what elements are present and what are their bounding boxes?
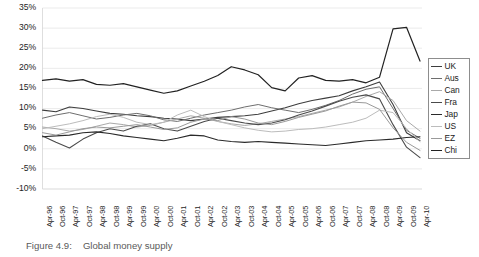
legend-swatch-icon: [431, 138, 442, 139]
legend-item-us[interactable]: US: [429, 121, 469, 133]
legend-item-label: US: [445, 122, 456, 131]
series-line-chi: [43, 27, 421, 93]
x-axis-tick-label: Apr-02: [207, 206, 215, 227]
chart-plot-area: 35%30%25%20%15%10%5%0%-5%-10% Apr-96Oct-…: [0, 0, 479, 232]
x-axis-tick-label: Apr-08: [369, 206, 377, 227]
series-lines-group: [43, 27, 421, 157]
x-axis-tick-label: Oct-99: [140, 206, 148, 227]
legend-swatch-icon: [431, 90, 442, 91]
legend-item-label: Jap: [445, 110, 458, 119]
gridlines-group: [43, 8, 423, 189]
x-axis-tick-label: Apr-97: [72, 206, 80, 227]
x-axis-tick-label: Oct-98: [113, 206, 121, 227]
legend-item-label: Can: [445, 86, 460, 95]
x-axis-tick-label: Apr-09: [396, 206, 404, 227]
x-axis-tick-label: Oct-97: [86, 206, 94, 227]
x-axis-tick-label: Oct-08: [383, 206, 391, 227]
legend-item-ez[interactable]: EZ: [429, 133, 469, 145]
legend-swatch-icon: [431, 102, 442, 103]
legend-item-fra[interactable]: Fra: [429, 97, 469, 109]
x-axis-tick-label: Oct-04: [275, 206, 283, 227]
x-axis-tick-label: Oct-07: [356, 206, 364, 227]
x-axis-tick-label: Apr-04: [261, 206, 269, 227]
x-axis-tick-label: Apr-01: [180, 206, 188, 227]
x-axis-tick-label: Oct-09: [410, 206, 418, 227]
legend-swatch-icon: [431, 66, 442, 67]
y-axis-tick-label: 20%: [2, 63, 36, 72]
x-axis-tick-label: Apr-10: [423, 206, 431, 227]
legend-item-aus[interactable]: Aus: [429, 73, 469, 85]
y-axis-tick-label: -5%: [2, 164, 36, 173]
x-axis-tick-label: Oct-03: [248, 206, 256, 227]
legend-item-label: EZ: [445, 134, 456, 143]
legend-item-label: Chi: [445, 146, 457, 155]
legend-item-jap[interactable]: Jap: [429, 109, 469, 121]
x-axis-tick-label: Apr-00: [153, 206, 161, 227]
legend-item-label: UK: [445, 62, 456, 71]
y-axis-tick-label: 25%: [2, 43, 36, 52]
x-axis-tick-label: Apr-06: [315, 206, 323, 227]
x-axis-tick-label: Apr-05: [288, 206, 296, 227]
figure-caption: Figure 4.9:Global money supply: [26, 240, 172, 252]
series-line-jap: [43, 132, 421, 146]
legend-swatch-icon: [431, 114, 442, 115]
series-line-fra: [43, 95, 421, 158]
legend-swatch-icon: [431, 78, 442, 79]
legend-item-uk[interactable]: UK: [429, 61, 469, 73]
y-axis-tick-label: 30%: [2, 23, 36, 32]
legend-item-chi[interactable]: Chi: [429, 145, 469, 157]
chart-legend: UKAusCanFraJapUSEZChi: [428, 58, 470, 159]
y-axis-tick-label: 35%: [2, 3, 36, 12]
x-axis-tick-label: Apr-07: [342, 206, 350, 227]
figure-caption-number: Figure 4.9:: [26, 240, 72, 251]
y-axis-tick-label: 0%: [2, 144, 36, 153]
legend-item-can[interactable]: Can: [429, 85, 469, 97]
figure-global-money-supply: 35%30%25%20%15%10%5%0%-5%-10% Apr-96Oct-…: [0, 0, 479, 257]
x-axis-tick-label: Oct-05: [302, 206, 310, 227]
x-axis-tick-label: Oct-96: [59, 206, 67, 227]
x-axis-tick-label: Oct-06: [329, 206, 337, 227]
x-axis-tick-label: Apr-03: [234, 206, 242, 227]
x-axis-tick-label: Apr-96: [46, 206, 54, 227]
legend-swatch-icon: [431, 126, 442, 127]
x-axis-tick-label: Oct-01: [194, 206, 202, 227]
figure-caption-text: Global money supply: [83, 240, 173, 251]
legend-item-label: Aus: [445, 74, 459, 83]
x-axis-tick-label: Oct-02: [221, 206, 229, 227]
x-axis-tick-label: Oct-00: [167, 206, 175, 227]
x-axis-tick-label: Apr-98: [99, 206, 107, 227]
x-axis-tick-label: Apr-99: [126, 206, 134, 227]
y-axis-tick-label: -10%: [2, 184, 36, 193]
legend-swatch-icon: [431, 150, 442, 151]
y-axis-tick-label: 5%: [2, 123, 36, 132]
y-axis-tick-label: 15%: [2, 83, 36, 92]
y-axis-tick-label: 10%: [2, 103, 36, 112]
line-chart-svg: [0, 0, 479, 232]
series-line-aus: [43, 87, 421, 138]
legend-item-label: Fra: [445, 98, 457, 107]
series-line-ez: [43, 102, 421, 150]
